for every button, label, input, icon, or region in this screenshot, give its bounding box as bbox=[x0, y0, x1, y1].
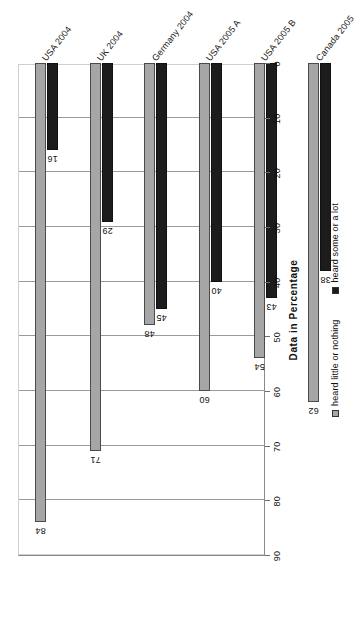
legend-swatch-icon bbox=[332, 287, 339, 294]
bar bbox=[35, 63, 46, 522]
axis-tick-label-70: 70 bbox=[272, 441, 282, 451]
legend-swatch-icon bbox=[332, 410, 339, 417]
axis-tick-label-90: 90 bbox=[272, 551, 282, 561]
bar-value-label: 16 bbox=[45, 153, 59, 164]
axis-tick-30 bbox=[265, 227, 270, 228]
gridline-30 bbox=[19, 226, 264, 227]
gridline-90 bbox=[19, 554, 264, 555]
category-label: USA 2005 B bbox=[259, 17, 298, 63]
category-label: Canada 2005 bbox=[314, 13, 356, 63]
category-label: USA 2004 bbox=[40, 24, 73, 63]
axis-tick-50 bbox=[265, 336, 270, 337]
gridline-50 bbox=[19, 335, 264, 336]
bar bbox=[199, 63, 210, 391]
bar-chart-figure: 0102030405060708090 Data in Percentage U… bbox=[0, 0, 360, 618]
axis-tick-0 bbox=[265, 63, 270, 64]
bar-value-label: 45 bbox=[155, 312, 169, 323]
gridline-70 bbox=[19, 445, 264, 446]
bar bbox=[211, 63, 222, 282]
axis-tick-70 bbox=[265, 446, 270, 447]
legend-item[interactable]: heard little or nothing bbox=[330, 320, 340, 417]
value-axis-title: Data in Percentage bbox=[288, 64, 299, 556]
axis-tick-80 bbox=[265, 500, 270, 501]
bar-value-label: 29 bbox=[100, 224, 114, 235]
gridline-80 bbox=[19, 499, 264, 500]
bar-value-label: 38 bbox=[319, 273, 333, 284]
bar bbox=[90, 63, 101, 451]
bar bbox=[308, 63, 319, 402]
axis-tick-90 bbox=[265, 555, 270, 556]
axis-tick-20 bbox=[265, 172, 270, 173]
bar-value-label: 62 bbox=[307, 404, 321, 415]
gridline-20 bbox=[19, 171, 264, 172]
bar-value-label: 84 bbox=[33, 525, 47, 536]
gridline-60 bbox=[19, 390, 264, 391]
axis-tick-60 bbox=[265, 391, 270, 392]
bar-value-label: 40 bbox=[209, 284, 223, 295]
category-label: UK 2004 bbox=[95, 29, 125, 63]
chart-legend: heard little or nothingheard some or a l… bbox=[330, 64, 340, 556]
chart-rotation-wrapper: 0102030405060708090 Data in Percentage U… bbox=[0, 0, 360, 618]
bar-value-label: 71 bbox=[88, 454, 102, 465]
bar bbox=[144, 63, 155, 325]
bar-value-label: 48 bbox=[143, 328, 157, 339]
bar-value-label: 43 bbox=[264, 301, 278, 312]
axis-tick-10 bbox=[265, 118, 270, 119]
bar bbox=[156, 63, 167, 309]
axis-tick-label-20: 20 bbox=[272, 168, 282, 178]
axis-tick-label-30: 30 bbox=[272, 223, 282, 233]
category-label: USA 2005 A bbox=[204, 18, 242, 63]
axis-tick-label-60: 60 bbox=[272, 387, 282, 397]
bar bbox=[47, 63, 58, 150]
plot-area bbox=[18, 64, 265, 556]
bar bbox=[102, 63, 113, 222]
bar-value-label: 54 bbox=[252, 361, 266, 372]
axis-tick-label-80: 80 bbox=[272, 496, 282, 506]
bar bbox=[254, 63, 265, 358]
axis-tick-label-40: 40 bbox=[272, 277, 282, 287]
category-label: Germany 2004 bbox=[150, 9, 195, 63]
axis-tick-label-50: 50 bbox=[272, 332, 282, 342]
gridline-40 bbox=[19, 281, 264, 282]
legend-label: heard some or a lot bbox=[330, 203, 340, 282]
axis-tick-label-10: 10 bbox=[272, 113, 282, 123]
legend-label: heard little or nothing bbox=[330, 320, 340, 406]
bar-value-label: 60 bbox=[197, 394, 211, 405]
axis-tick-label-0: 0 bbox=[272, 61, 282, 66]
axis-tick-40 bbox=[265, 282, 270, 283]
